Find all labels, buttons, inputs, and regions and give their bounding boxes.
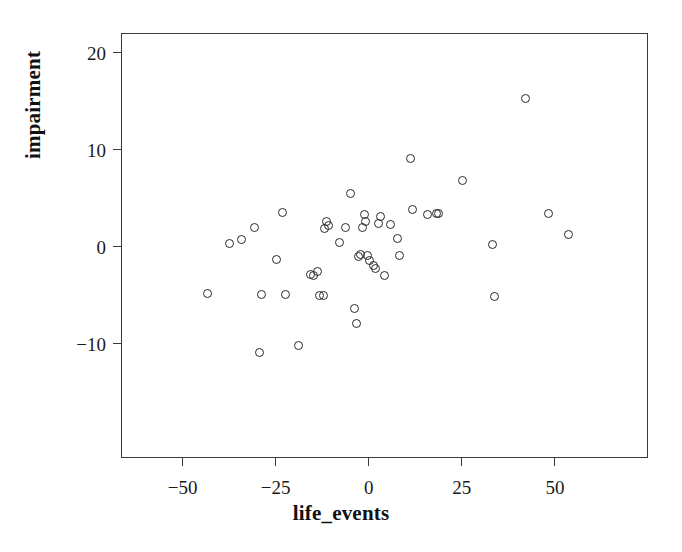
- data-point: [324, 221, 333, 230]
- data-point: [294, 341, 303, 350]
- data-point: [350, 304, 359, 313]
- data-point: [488, 240, 497, 249]
- data-point: [319, 291, 328, 300]
- data-point: [376, 212, 385, 221]
- x-axis-tick: 50: [554, 457, 555, 466]
- scatter-plot-figure: −1001020 −50−2502550 impairment life_eve…: [0, 0, 682, 552]
- y-axis-tick-label: 0: [97, 237, 107, 256]
- data-point: [395, 251, 404, 260]
- data-point: [564, 230, 573, 239]
- y-axis-tick-label: 10: [87, 140, 106, 159]
- x-axis-tick: 25: [461, 457, 462, 466]
- x-axis-tick-label: −25: [261, 478, 291, 497]
- data-point: [250, 223, 259, 232]
- x-axis-tick: −50: [182, 457, 183, 466]
- data-point: [255, 348, 264, 357]
- data-point: [352, 319, 361, 328]
- x-axis-tick: −25: [275, 457, 276, 466]
- data-points-layer: [122, 34, 647, 457]
- y-axis-tick: −10: [113, 343, 122, 344]
- data-point: [225, 239, 234, 248]
- data-point: [371, 264, 380, 273]
- y-axis-tick-label: 20: [87, 43, 106, 62]
- data-point: [257, 290, 266, 299]
- data-point: [423, 210, 432, 219]
- data-point: [393, 234, 402, 243]
- data-point: [313, 267, 322, 276]
- data-point: [341, 223, 350, 232]
- x-axis-tick: 0: [368, 457, 369, 466]
- data-point: [544, 209, 553, 218]
- data-point: [335, 238, 344, 247]
- data-point: [278, 208, 287, 217]
- y-axis-tick: 20: [113, 52, 122, 53]
- x-axis-title: life_events: [0, 501, 682, 526]
- data-point: [434, 209, 443, 218]
- data-point: [203, 289, 212, 298]
- data-point: [361, 217, 370, 226]
- data-point: [380, 271, 389, 280]
- x-axis-tick-label: −50: [168, 478, 198, 497]
- data-point: [408, 205, 417, 214]
- data-point: [272, 255, 281, 264]
- plot-frame: −1001020 −50−2502550: [121, 33, 648, 458]
- data-point: [490, 292, 499, 301]
- data-point: [406, 154, 415, 163]
- x-axis-tick-label: 0: [364, 478, 374, 497]
- data-point: [281, 290, 290, 299]
- data-point: [237, 235, 246, 244]
- y-axis-tick: 0: [113, 246, 122, 247]
- y-axis-tick-label: −10: [76, 335, 106, 354]
- data-point: [458, 176, 467, 185]
- y-axis-title: impairment: [21, 10, 51, 200]
- data-point: [521, 94, 530, 103]
- data-point: [386, 220, 395, 229]
- y-axis-tick: 10: [113, 149, 122, 150]
- x-axis-tick-label: 25: [452, 478, 471, 497]
- x-axis-tick-label: 50: [545, 478, 564, 497]
- data-point: [346, 189, 355, 198]
